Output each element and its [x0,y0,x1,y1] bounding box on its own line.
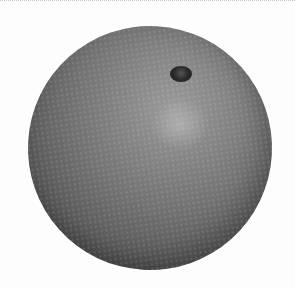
peel-texture [12,10,288,286]
top-border [0,0,295,2]
orange-fruit [12,10,288,286]
orange-stem [170,66,192,82]
peel-highlight [150,100,210,150]
